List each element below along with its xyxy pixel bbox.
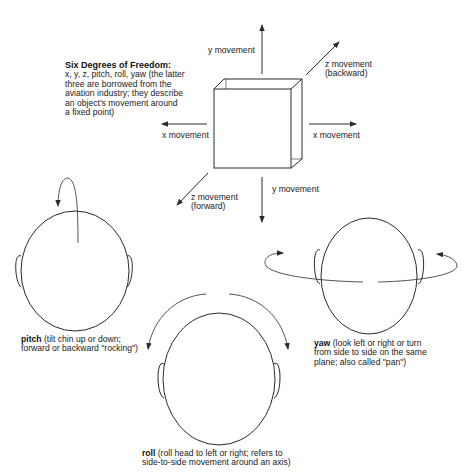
yaw-caption: yaw (look left or right or turn from sid…	[314, 339, 427, 367]
x-right-label: x movement	[313, 131, 360, 140]
z-forward-label: z movement (forward)	[191, 193, 238, 212]
z-backward-line: (backward)	[325, 69, 372, 78]
pitch-caption: pitch (tilt chin up or down; forward or …	[21, 335, 138, 354]
z-forward-line: (forward)	[191, 202, 238, 211]
yaw-head-icon	[265, 218, 457, 334]
pitch-head-icon	[16, 178, 133, 331]
intro-line: a fixed point)	[65, 108, 185, 117]
cube-icon	[214, 79, 302, 168]
y-down-label: y movement	[272, 185, 319, 194]
pitch-desc: forward or backward "rocking")	[21, 344, 138, 353]
roll-caption: roll (roll head to left or right; refers…	[142, 449, 291, 468]
y-up-label: y movement	[208, 46, 255, 55]
z-backward-label: z movement (backward)	[325, 60, 372, 79]
roll-desc: side-to-side movement around an axis)	[142, 458, 291, 467]
roll-head-icon	[148, 294, 288, 445]
intro-block: Six Degrees of Freedom: x, y, z, pitch, …	[65, 61, 185, 117]
yaw-desc: plane; also called "pan")	[314, 358, 427, 367]
x-left-label: x movement	[162, 131, 209, 140]
